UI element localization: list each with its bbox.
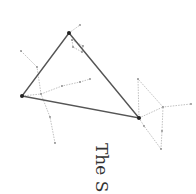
minor-stars [20,24,192,150]
star-icon [20,94,24,98]
figure-caption: The S [92,143,112,192]
constellation-lines [21,25,191,149]
summer-triangle-lines [22,33,139,118]
star-icon [137,116,141,120]
star-icon [67,31,71,35]
